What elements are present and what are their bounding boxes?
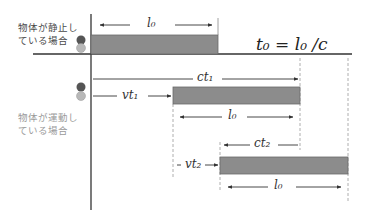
rest-bar bbox=[91, 35, 218, 54]
moving-case-label-line2: ている場合 bbox=[18, 125, 68, 137]
moving-bar-1 bbox=[173, 87, 300, 104]
rest-time-formula: t₀ = l₀ /c bbox=[256, 34, 328, 54]
rest-case-label-line1: 物体が静止し bbox=[18, 22, 78, 34]
ball-light-icon bbox=[77, 92, 86, 101]
ct1-label: ct₁ bbox=[195, 70, 215, 84]
vt2-label: vt₂ bbox=[183, 157, 203, 171]
ball-dark-icon bbox=[77, 83, 86, 92]
ball-dark-icon bbox=[77, 36, 86, 45]
l0-label-1: l₀ bbox=[226, 108, 239, 122]
vt1-label: vt₁ bbox=[120, 88, 140, 102]
light-clock-diagram: 物体が静止し ている場合 l₀ t₀ = l₀ /c 物体が運動し ている場合 … bbox=[0, 0, 371, 223]
ct2-label: ct₂ bbox=[252, 136, 272, 150]
ball-light-icon bbox=[77, 44, 86, 53]
moving-bar-2 bbox=[220, 157, 348, 174]
rest-case-label-line2: ている場合 bbox=[18, 35, 68, 47]
l0-label-2: l₀ bbox=[272, 178, 285, 192]
moving-case-label-line1: 物体が運動し bbox=[18, 112, 78, 124]
rest-length-label: l₀ bbox=[145, 16, 158, 30]
